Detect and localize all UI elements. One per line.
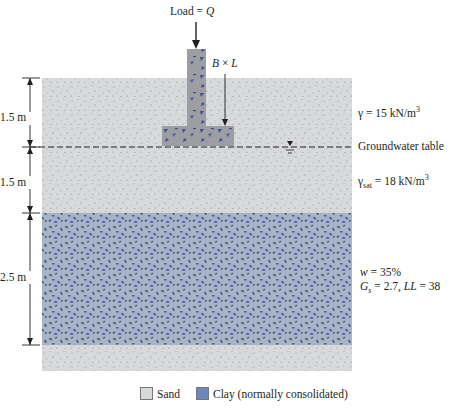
- footing-l: L: [231, 57, 237, 69]
- sand-layer-saturated: [42, 147, 352, 213]
- footing-base: [162, 126, 234, 146]
- water-content-label: w = 35%: [360, 267, 401, 279]
- load-symbol: Q: [206, 5, 214, 17]
- sand-swatch-icon: [140, 387, 153, 400]
- times-sign: ×: [219, 57, 231, 69]
- gamma-value: = 15 kN/m: [363, 107, 416, 119]
- w-value: = 35%: [368, 266, 401, 278]
- gamma-top-label: γ = 15 kN/m3: [358, 106, 420, 119]
- dimension-clay: 2.5 m: [0, 272, 26, 284]
- dimension-top-sand: 1.5 m: [0, 112, 26, 124]
- ll-value: = 38: [417, 280, 441, 292]
- footing-dimension-label: B × L: [212, 58, 238, 70]
- sand-layer-bottom: [42, 345, 352, 371]
- gamma-sat-exponent: 3: [425, 173, 429, 182]
- clay-properties-label: Gs = 2.7, LL = 38: [360, 281, 440, 295]
- ll-symbol: LL: [404, 280, 417, 292]
- legend-sand-label: Sand: [157, 388, 180, 400]
- footing-b: B: [212, 57, 219, 69]
- load-text: Load =: [170, 5, 206, 17]
- legend-clay-label: Clay (normally consolidated): [213, 388, 348, 400]
- gamma-sat-subscript: sat: [363, 181, 372, 190]
- clay-swatch-icon: [196, 387, 209, 400]
- clay-layer: [42, 213, 352, 345]
- footing-column: [187, 49, 206, 127]
- dimension-saturated-sand: 1.5 m: [0, 177, 26, 189]
- gamma-exponent: 3: [416, 105, 420, 114]
- load-label: Load = Q: [170, 6, 214, 18]
- load-arrow-icon: [192, 40, 200, 49]
- gamma-sat-label: γsat = 18 kN/m3: [358, 174, 429, 190]
- legend: Sand Clay (normally consolidated): [140, 387, 348, 400]
- groundwater-table-label: Groundwater table: [358, 141, 444, 153]
- gamma-sat-value: = 18 kN/m: [372, 175, 425, 187]
- gs-value: = 2.7,: [371, 280, 403, 292]
- w-symbol: w: [360, 266, 368, 278]
